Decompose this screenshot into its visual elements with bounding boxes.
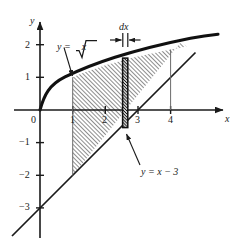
y-axis-label: y [30, 15, 34, 26]
dx-strip [123, 58, 128, 128]
x-axis-label: x [225, 113, 229, 124]
shaded-area-region [73, 42, 187, 175]
dx-dimension [110, 33, 141, 47]
y-tick-label-minus-2: −2 [19, 169, 30, 180]
x-tick-label-4: 4 [168, 114, 173, 125]
line-label-leader [127, 134, 141, 165]
x-tick-label-1: 1 [70, 114, 75, 125]
x-tick-label-2: 2 [102, 114, 107, 125]
curve-radicand: x [82, 41, 86, 52]
curve-equation-text: y = [57, 41, 71, 52]
x-tick-label-3: 3 [135, 114, 140, 125]
origin-label: 0 [31, 114, 36, 125]
y-tick-label-minus-1: −1 [19, 136, 30, 147]
y-tick-label-minus-3: −3 [19, 201, 30, 212]
dx-label: dx [119, 21, 128, 32]
figure-canvas: y x 0 1 2 3 4 2 1 −1 −2 −3 y =x dx y = x… [0, 0, 240, 245]
y-tick-label-2: 2 [25, 39, 30, 50]
plot-svg [0, 0, 240, 245]
line-equation-label: y = x − 3 [141, 166, 178, 177]
curve-equation-label: y =x [57, 41, 86, 52]
y-tick-label-1: 1 [25, 71, 30, 82]
